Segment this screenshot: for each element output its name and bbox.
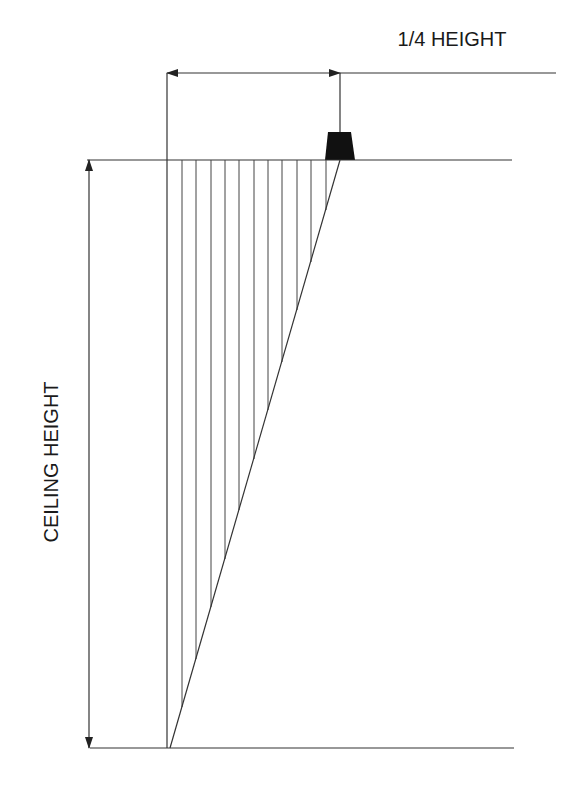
ceiling-light-spread-diagram: 1/4 HEIGHT CEILING HEIGHT	[0, 0, 570, 792]
ceiling-height-label: CEILING HEIGHT	[40, 381, 62, 542]
quarter-height-label: 1/4 HEIGHT	[398, 28, 507, 50]
light-fixture-icon	[325, 132, 355, 160]
light-spread-hatching	[182, 160, 326, 707]
